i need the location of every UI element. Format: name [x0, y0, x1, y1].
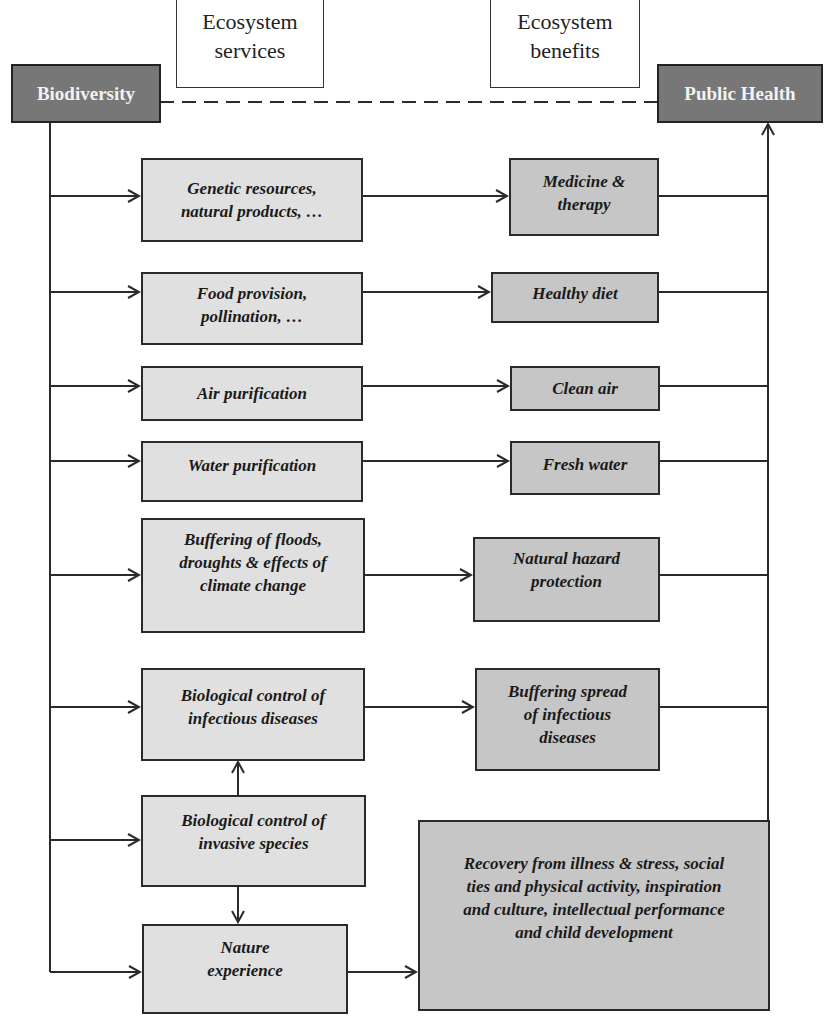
service-buffering-floods: Buffering of floods, droughts & effects …	[141, 518, 365, 633]
service-bio-control-invasive: Biological control of invasive species	[141, 795, 366, 887]
header-ecosystem-services: Ecosystem services	[176, 0, 324, 88]
benefit-buffering-spread: Buffering spread of infectious diseases	[475, 668, 660, 771]
benefit-fresh-water: Fresh water	[510, 441, 660, 495]
benefit-recovery-wellbeing: Recovery from illness & stress, social t…	[418, 820, 770, 1011]
benefit-healthy-diet: Healthy diet	[491, 272, 659, 323]
service-bio-control-infectious: Biological control of infectious disease…	[141, 668, 365, 761]
node-biodiversity: Biodiversity	[11, 64, 161, 123]
node-public-health: Public Health	[657, 64, 823, 123]
service-air-purification: Air purification	[141, 366, 363, 421]
benefit-clean-air: Clean air	[510, 366, 660, 411]
service-water-purification: Water purification	[141, 441, 363, 502]
benefit-medicine-therapy: Medicine & therapy	[509, 158, 659, 236]
service-nature-experience: Nature experience	[142, 924, 348, 1014]
header-ecosystem-benefits: Ecosystem benefits	[490, 0, 640, 88]
benefit-natural-hazard-protection: Natural hazard protection	[473, 537, 660, 622]
service-genetic-resources: Genetic resources, natural products, …	[141, 158, 363, 242]
service-food-provision: Food provision, pollination, …	[141, 272, 363, 345]
